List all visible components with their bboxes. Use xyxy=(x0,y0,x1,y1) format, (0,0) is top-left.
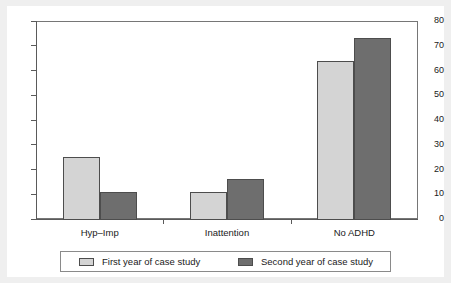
x-axis-category-label: Hyp–Imp xyxy=(36,227,163,238)
legend-swatch xyxy=(79,258,94,266)
y-axis-tick-label: 0 xyxy=(422,214,444,223)
chart-figure: 01020304050607080 Hyp–ImpInattentionNo A… xyxy=(7,6,444,277)
chart-legend: First year of case studySecond year of c… xyxy=(60,251,391,272)
y-axis-tick-label: 50 xyxy=(422,90,444,99)
y-axis-tick xyxy=(31,169,36,170)
legend-entry: First year of case study xyxy=(79,252,200,271)
legend-entry: Second year of case study xyxy=(238,252,373,271)
y-axis-tick xyxy=(31,21,36,22)
y-axis-tick-label: 80 xyxy=(422,16,444,25)
x-axis-tick xyxy=(291,219,292,224)
legend-label: Second year of case study xyxy=(261,257,373,267)
y-axis-line xyxy=(36,21,37,219)
y-axis-tick xyxy=(31,120,36,121)
y-axis-tick xyxy=(31,45,36,46)
y-axis-tick xyxy=(31,194,36,195)
y-axis-tick-label: 20 xyxy=(422,165,444,174)
y-axis-tick xyxy=(31,95,36,96)
y-axis-tick-label: 70 xyxy=(422,41,444,50)
bar xyxy=(63,157,100,220)
x-axis-category-label: Inattention xyxy=(163,227,290,238)
bar xyxy=(100,192,137,220)
y-axis-tick xyxy=(31,70,36,71)
x-axis-category-label: No ADHD xyxy=(291,227,418,238)
bar xyxy=(354,38,391,220)
legend-label: First year of case study xyxy=(102,257,200,267)
x-axis-tick xyxy=(163,219,164,224)
bar xyxy=(227,179,264,220)
bar xyxy=(317,61,354,220)
bar xyxy=(190,192,227,220)
y-axis-tick-label: 30 xyxy=(422,140,444,149)
y-axis-tick-label: 10 xyxy=(422,189,444,198)
y-axis-tick xyxy=(31,144,36,145)
y-axis-tick-label: 40 xyxy=(422,115,444,124)
legend-swatch xyxy=(238,258,253,266)
y-axis-tick xyxy=(31,219,36,220)
y-axis-tick-label: 60 xyxy=(422,66,444,75)
